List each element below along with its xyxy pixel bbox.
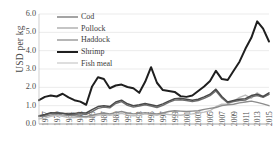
legend-item-fish-meal[interactable]: Fish meal [57,57,149,69]
legend-item-haddock[interactable]: Haddock [57,34,149,46]
legend-label: Pollock [78,24,105,33]
line-chart: USD per kg 0.01.02.03.04.05.06.0 1977197… [0,0,273,159]
legend: CodPollockHaddockShrimpFish meal [57,11,149,69]
legend-item-shrimp[interactable]: Shrimp [57,46,149,58]
legend-item-cod[interactable]: Cod [57,11,149,23]
legend-swatch-icon [57,47,78,57]
legend-swatch-icon [57,35,78,45]
legend-label: Haddock [78,35,110,44]
legend-swatch-icon [57,58,78,68]
legend-label: Fish meal [78,59,112,68]
legend-label: Shrimp [78,47,105,56]
legend-swatch-icon [57,12,78,22]
series-line-cod [39,89,269,116]
legend-item-pollock[interactable]: Pollock [57,23,149,35]
legend-swatch-icon [57,23,78,33]
legend-label: Cod [78,12,94,21]
